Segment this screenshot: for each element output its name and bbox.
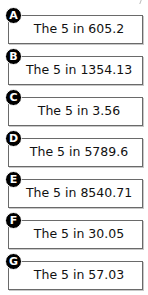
answer-option-f[interactable]: The 5 in 30.05 F (8, 220, 142, 248)
answer-option-d[interactable]: The 5 in 5789.6 D (8, 138, 142, 166)
answer-option-g[interactable]: The 5 in 57.03 G (8, 261, 142, 289)
letter-badge: E (5, 171, 22, 188)
letter-badge: F (5, 212, 22, 229)
answer-option-c[interactable]: The 5 in 3.56 C (8, 97, 142, 125)
answer-text: The 5 in 5789.6 (8, 138, 142, 166)
answer-text: The 5 in 605.2 (8, 15, 142, 43)
answer-option-b[interactable]: The 5 in 1354.13 B (8, 56, 142, 84)
answer-option-e[interactable]: The 5 in 8540.71 E (8, 179, 142, 207)
corner-mark (139, 0, 143, 4)
answer-text: The 5 in 8540.71 (8, 179, 142, 207)
letter-badge: D (5, 130, 22, 147)
letter-badge: A (5, 7, 22, 24)
answer-text: The 5 in 3.56 (8, 97, 142, 125)
letter-badge: C (5, 89, 22, 106)
answer-text: The 5 in 30.05 (8, 220, 142, 248)
answer-text: The 5 in 57.03 (8, 261, 142, 289)
letter-badge: G (5, 253, 22, 270)
answer-option-a[interactable]: The 5 in 605.2 A (8, 15, 142, 43)
letter-badge: B (5, 48, 22, 65)
answer-text: The 5 in 1354.13 (8, 56, 142, 84)
